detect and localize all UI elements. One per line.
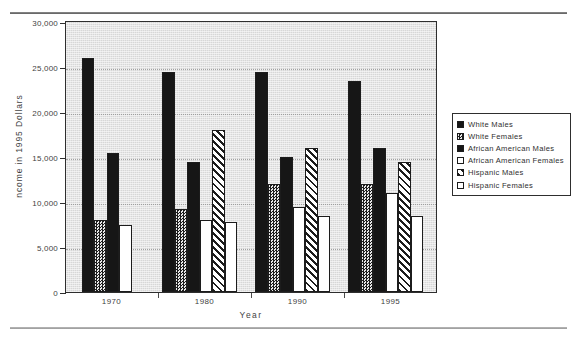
x-tick-label: 1970: [102, 297, 121, 306]
bar: [225, 222, 238, 292]
bar: [255, 72, 268, 293]
bar: [373, 148, 386, 292]
legend: White MalesWhite FemalesAfrican American…: [452, 113, 571, 196]
legend-rows: White MalesWhite FemalesAfrican American…: [457, 118, 566, 191]
y-tick-label: 25,000: [32, 64, 58, 73]
bar: [175, 209, 188, 292]
bar: [200, 220, 213, 292]
legend-item: Hispanic Females: [457, 179, 566, 191]
x-tick-mark: [251, 293, 252, 298]
bar: [82, 58, 95, 292]
legend-item-label: White Females: [468, 132, 523, 141]
x-tick-label: 1995: [381, 297, 400, 306]
y-tick-mark: [60, 293, 66, 294]
bottom-rule: [10, 327, 567, 329]
bar: [280, 157, 293, 292]
y-tick-label: 0: [53, 289, 58, 298]
bar: [94, 220, 107, 292]
bar: [293, 207, 306, 293]
bar: [119, 225, 132, 293]
x-tick-mark: [158, 293, 159, 298]
bar: [398, 162, 411, 293]
top-rule: [10, 12, 567, 14]
y-tick-label: 20,000: [32, 109, 58, 118]
bar: [212, 130, 225, 292]
gridline: [66, 114, 436, 115]
bar: [268, 184, 281, 292]
y-axis: ncome in 1995 Dollars 05,00010,00015,000…: [0, 21, 65, 293]
bar: [411, 216, 424, 292]
y-tick-label: 10,000: [32, 199, 58, 208]
bar: [187, 162, 200, 293]
legend-swatch-icon: [457, 169, 464, 176]
x-tick-mark: [344, 293, 345, 298]
legend-item: Hispanic Males: [457, 167, 566, 179]
legend-item-label: Hispanic Males: [468, 168, 524, 177]
legend-swatch-icon: [457, 157, 464, 164]
legend-item-label: White Males: [468, 120, 513, 129]
legend-item-label: Hispanic Females: [468, 181, 533, 190]
legend-swatch-icon: [457, 145, 464, 152]
y-axis-label: ncome in 1995 Dollars: [14, 71, 24, 221]
bar: [318, 216, 331, 292]
legend-item-label: African American Males: [468, 144, 554, 153]
bar: [162, 72, 175, 293]
y-tick-label: 30,000: [32, 19, 58, 28]
gridline: [66, 69, 436, 70]
legend-swatch-icon: [457, 182, 464, 189]
x-tick-label: 1990: [288, 297, 307, 306]
x-tick-label: 1980: [195, 297, 214, 306]
y-tick-label: 15,000: [32, 154, 58, 163]
bar: [361, 184, 374, 292]
plot-area: [65, 21, 437, 293]
figure-root: ncome in 1995 Dollars 05,00010,00015,000…: [0, 0, 577, 342]
legend-item: African American Females: [457, 155, 566, 167]
x-axis-label: Year: [65, 310, 437, 320]
bar: [386, 193, 399, 292]
bar: [305, 148, 318, 292]
legend-item: African American Males: [457, 142, 566, 154]
legend-item: White Males: [457, 118, 566, 130]
legend-item: White Females: [457, 130, 566, 142]
y-tick-label: 5,000: [37, 244, 58, 253]
legend-item-label: African American Females: [468, 156, 564, 165]
bar: [348, 81, 361, 293]
legend-swatch-icon: [457, 121, 464, 128]
legend-swatch-icon: [457, 133, 464, 140]
bar: [107, 153, 120, 293]
